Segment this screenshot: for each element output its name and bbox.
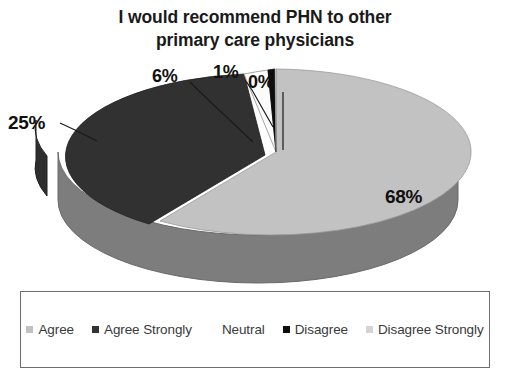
- legend-swatch-icon-disagree-strongly: [366, 326, 373, 333]
- legend-label-disagree-strongly: Disagree Strongly: [378, 322, 484, 337]
- data-label-disagree-strongly: 0%: [248, 72, 273, 93]
- data-label-neutral: 6%: [152, 66, 177, 87]
- legend-swatch-icon-agree-strongly: [92, 326, 99, 333]
- legend-label-disagree: Disagree: [295, 322, 348, 337]
- legend-swatch-icon-neutral: [210, 326, 217, 333]
- legend-label-neutral: Neutral: [222, 322, 265, 337]
- legend-swatch-icon-disagree: [283, 326, 290, 333]
- pie-plot-area: [0, 0, 510, 292]
- legend-item-agree[interactable]: Agree: [26, 322, 74, 337]
- legend-swatch-icon-agree: [26, 326, 33, 333]
- legend-item-neutral[interactable]: Neutral: [210, 322, 265, 337]
- legend-item-disagree-strongly[interactable]: Disagree Strongly: [366, 322, 484, 337]
- legend-row: Agree Agree Strongly Neutral Disagree Di…: [21, 292, 489, 367]
- data-label-agree-strongly: 25%: [8, 112, 45, 134]
- data-label-agree: 68%: [385, 186, 422, 208]
- legend-label-agree: Agree: [38, 322, 74, 337]
- data-label-disagree: 1%: [213, 62, 238, 83]
- legend-item-disagree[interactable]: Disagree: [283, 322, 348, 337]
- chart-container: I would recommend PHN to other primary c…: [0, 0, 510, 381]
- legend-item-agree-strongly[interactable]: Agree Strongly: [92, 322, 192, 337]
- chart-legend: Agree Agree Strongly Neutral Disagree Di…: [20, 291, 490, 368]
- legend-label-agree-strongly: Agree Strongly: [104, 322, 192, 337]
